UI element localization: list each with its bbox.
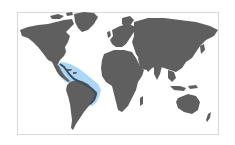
world-map: [0, 0, 235, 145]
north-america: [20, 19, 74, 67]
africa: [101, 50, 144, 112]
europe: [110, 24, 134, 47]
australia: [176, 94, 200, 114]
land-masses: [20, 12, 218, 130]
greenland: [74, 12, 98, 32]
